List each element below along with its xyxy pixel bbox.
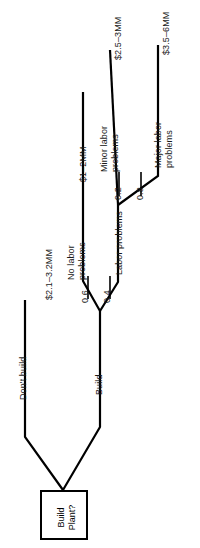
edge-label-major-labor-problems: Major labor problems bbox=[153, 122, 174, 168]
edge-label-labor-problems: Labor problems bbox=[114, 211, 125, 275]
prob-label-labor-problems: 0.4 bbox=[102, 290, 113, 303]
prob-label-major-labor-problems: 0.8 bbox=[135, 187, 146, 200]
decision-node-label-line2: Plant? bbox=[66, 505, 76, 531]
payoff-minor-labor-problems: $2.5–3MM bbox=[113, 17, 124, 60]
edge-label-minor-labor-problems: Minor labor problems bbox=[99, 126, 120, 172]
prob-label-no-labor-problems: 0.6 bbox=[80, 290, 91, 303]
edge-build bbox=[63, 311, 100, 490]
edge-label-no-labor-problems-line2: problems bbox=[77, 242, 87, 280]
prob-label-minor-labor-problems: 0.2 bbox=[113, 187, 124, 200]
payoff-dont-build: $2.1–3.2MM bbox=[44, 249, 55, 300]
payoff-major-labor-problems: $3.5–6MM bbox=[161, 12, 172, 55]
payoff-no-labor-problems: $1–2MM bbox=[78, 146, 89, 182]
edge-major-labor-problems bbox=[118, 45, 158, 205]
edge-label-build: Build bbox=[94, 374, 105, 395]
decision-tree-canvas bbox=[0, 0, 200, 548]
edge-label-minor-labor-problems-line2: problems bbox=[110, 134, 120, 172]
edge-label-major-labor-problems-line1: Major labor bbox=[153, 122, 163, 168]
decision-node-build-plant[interactable]: BuildPlant? bbox=[40, 490, 88, 540]
edge-label-dont-build: Don't build bbox=[18, 357, 29, 400]
decision-node-label-line1: Build bbox=[56, 508, 66, 528]
edge-label-no-labor-problems-line1: No labor bbox=[66, 245, 76, 280]
edge-label-minor-labor-problems-line1: Minor labor bbox=[99, 126, 109, 172]
edge-dont-build bbox=[25, 300, 63, 490]
edge-label-no-labor-problems: No labor problems bbox=[66, 242, 87, 280]
decision-node-label: BuildPlant? bbox=[56, 488, 77, 548]
edge-label-major-labor-problems-line2: problems bbox=[164, 130, 174, 168]
